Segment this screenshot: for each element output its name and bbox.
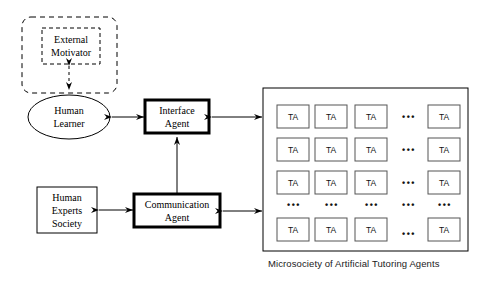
- interface-agent-box: [145, 100, 209, 133]
- ta-column-ellipsis: • • •: [315, 197, 347, 213]
- ta-agent-label: TA: [315, 218, 347, 241]
- ta-column-ellipsis: • • •: [277, 197, 309, 213]
- ta-agent-label: TA: [428, 218, 460, 241]
- ta-agent-label: TA: [355, 218, 387, 241]
- ta-agent-label: TA: [428, 171, 460, 194]
- ta-agent-label: TA: [428, 138, 460, 161]
- ta-agent-label: TA: [315, 171, 347, 194]
- ta-column-ellipsis: • • •: [355, 197, 387, 213]
- ta-column-ellipsis: • • •: [428, 197, 460, 213]
- microsociety-caption: Microsociety of Artificial Tutoring Agen…: [268, 258, 440, 269]
- ta-agent-label: TA: [355, 138, 387, 161]
- ta-agent-label: TA: [355, 105, 387, 128]
- ta-agent-label: TA: [277, 218, 309, 241]
- ta-agent-label: TA: [277, 171, 309, 194]
- ta-agent-label: TA: [355, 171, 387, 194]
- diagram-canvas: External Motivator Human Learner Interfa…: [0, 0, 487, 284]
- communication-agent-box: [134, 194, 220, 227]
- ta-agent-label: TA: [277, 105, 309, 128]
- ta-row-ellipsis: • • •: [391, 105, 425, 128]
- human-experts-society-box: [37, 187, 97, 233]
- ta-column-ellipsis: • • •: [391, 197, 425, 213]
- ta-agent-label: TA: [428, 105, 460, 128]
- ta-row-ellipsis: • • •: [391, 222, 425, 245]
- ta-row-ellipsis: • • •: [391, 171, 425, 194]
- external-motivator-container: [22, 17, 117, 93]
- ta-agent-label: TA: [315, 138, 347, 161]
- ta-agent-label: TA: [277, 138, 309, 161]
- human-learner-ellipse: [28, 95, 110, 139]
- external-motivator-box: [42, 28, 100, 64]
- ta-row-ellipsis: • • •: [391, 138, 425, 161]
- ta-agent-label: TA: [315, 105, 347, 128]
